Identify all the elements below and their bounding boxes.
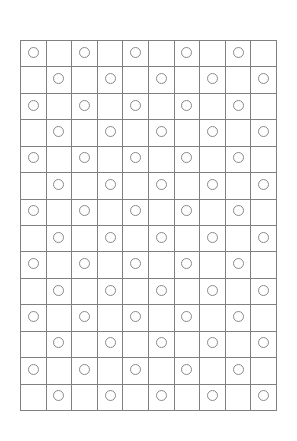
grid-cell xyxy=(175,41,201,67)
circle-marker-icon xyxy=(181,205,192,216)
grid-cell xyxy=(226,147,252,173)
grid-cell xyxy=(200,41,226,67)
grid-cell xyxy=(123,120,149,146)
circle-marker-icon xyxy=(105,126,116,137)
circle-marker-icon xyxy=(233,258,244,269)
circle-pattern-grid xyxy=(20,40,277,411)
circle-marker-icon xyxy=(105,232,116,243)
grid-cell xyxy=(98,385,124,411)
grid-cell xyxy=(21,120,47,146)
grid-cell xyxy=(123,67,149,93)
grid-cell xyxy=(226,332,252,358)
circle-marker-icon xyxy=(53,73,64,84)
circle-marker-icon xyxy=(130,205,141,216)
circle-marker-icon xyxy=(53,232,64,243)
grid-cell xyxy=(98,279,124,305)
circle-marker-icon xyxy=(258,285,269,296)
grid-cell xyxy=(47,67,73,93)
grid-cell xyxy=(200,147,226,173)
grid-cell xyxy=(47,120,73,146)
grid-cell xyxy=(149,173,175,199)
circle-marker-icon xyxy=(156,73,167,84)
grid-cell xyxy=(175,358,201,384)
circle-marker-icon xyxy=(156,232,167,243)
circle-marker-icon xyxy=(53,179,64,190)
grid-cell xyxy=(21,332,47,358)
grid-cell xyxy=(21,67,47,93)
grid-cell xyxy=(47,226,73,252)
grid-cell xyxy=(123,358,149,384)
grid-cell xyxy=(175,94,201,120)
grid-cell xyxy=(200,226,226,252)
circle-marker-icon xyxy=(181,311,192,322)
circle-marker-icon xyxy=(53,285,64,296)
grid-cell xyxy=(123,147,149,173)
grid-cell xyxy=(200,279,226,305)
grid-cell xyxy=(123,279,149,305)
grid-cell xyxy=(251,279,277,305)
grid-cell xyxy=(72,226,98,252)
grid-cell xyxy=(149,358,175,384)
circle-marker-icon xyxy=(79,258,90,269)
grid-cell xyxy=(123,226,149,252)
grid-cell xyxy=(21,358,47,384)
grid-cell xyxy=(200,358,226,384)
circle-marker-icon xyxy=(181,47,192,58)
grid-cell xyxy=(72,147,98,173)
circle-marker-icon xyxy=(233,311,244,322)
circle-marker-icon xyxy=(258,390,269,401)
grid-cell xyxy=(123,332,149,358)
grid-cell xyxy=(200,67,226,93)
circle-marker-icon xyxy=(233,152,244,163)
grid-cell xyxy=(149,41,175,67)
grid-cell xyxy=(72,120,98,146)
circle-marker-icon xyxy=(207,232,218,243)
grid-cell xyxy=(226,385,252,411)
circle-marker-icon xyxy=(105,337,116,348)
grid-cell xyxy=(47,358,73,384)
grid-cell xyxy=(21,252,47,278)
circle-marker-icon xyxy=(105,179,116,190)
circle-marker-icon xyxy=(181,258,192,269)
grid-cell xyxy=(226,94,252,120)
grid-cell xyxy=(149,67,175,93)
grid-cell xyxy=(226,173,252,199)
circle-marker-icon xyxy=(53,337,64,348)
grid-cell xyxy=(123,385,149,411)
circle-marker-icon xyxy=(105,73,116,84)
circle-marker-icon xyxy=(258,73,269,84)
grid-cell xyxy=(251,226,277,252)
grid-cell xyxy=(47,147,73,173)
grid-cell xyxy=(47,279,73,305)
grid-cell xyxy=(175,305,201,331)
grid-cell xyxy=(251,173,277,199)
grid-cell xyxy=(251,332,277,358)
circle-marker-icon xyxy=(28,258,39,269)
grid-cell xyxy=(175,173,201,199)
grid-cell xyxy=(21,41,47,67)
grid-cell xyxy=(72,41,98,67)
grid-cell xyxy=(226,305,252,331)
grid-cell xyxy=(149,332,175,358)
grid-cell xyxy=(98,94,124,120)
grid-cell xyxy=(72,200,98,226)
grid-cell xyxy=(175,120,201,146)
grid-cell xyxy=(226,279,252,305)
circle-marker-icon xyxy=(258,337,269,348)
grid-cell xyxy=(149,279,175,305)
circle-marker-icon xyxy=(130,364,141,375)
grid-cell xyxy=(98,252,124,278)
grid-cell xyxy=(72,305,98,331)
grid-cell xyxy=(251,120,277,146)
circle-marker-icon xyxy=(53,126,64,137)
circle-marker-icon xyxy=(258,179,269,190)
grid-cell xyxy=(72,279,98,305)
grid-cell xyxy=(21,279,47,305)
grid-cell xyxy=(226,226,252,252)
grid-cell xyxy=(123,200,149,226)
circle-marker-icon xyxy=(156,126,167,137)
circle-marker-icon xyxy=(181,364,192,375)
grid-cell xyxy=(21,385,47,411)
circle-marker-icon xyxy=(156,179,167,190)
circle-marker-icon xyxy=(28,311,39,322)
